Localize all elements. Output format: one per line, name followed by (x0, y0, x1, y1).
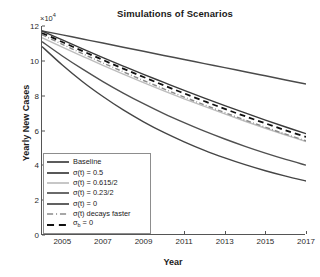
x-axis-tick-label: 2009 (135, 237, 153, 246)
y-axis-label: Yearly New Cases (21, 53, 31, 193)
legend-item[interactable]: σ(t) = 0 (47, 199, 146, 209)
y-axis-tick-label: 0 (35, 231, 39, 240)
x-axis-tick-label: 2005 (53, 237, 71, 246)
legend-item-label: σb = 0 (73, 218, 93, 230)
legend-item-label: σ(t) = 0 (73, 199, 97, 209)
x-axis-tick-label: 2011 (176, 237, 193, 246)
y-axis-tick-label: 12 (30, 22, 39, 31)
legend-item[interactable]: σ(t) = 0.23/2 (47, 188, 146, 198)
series-line-sigma-0.23-over-2 (42, 42, 306, 165)
y-axis-tick-mark (42, 60, 45, 61)
legend-item[interactable]: σb = 0 (47, 219, 146, 229)
x-axis-tick-label: 2007 (94, 237, 112, 246)
legend-item-label: σ(t) = 0.5 (73, 168, 103, 178)
x-axis-tick-mark (184, 231, 185, 234)
y-axis-multiplier: ×104 (40, 12, 56, 23)
legend-item-label: σ(t) = 0.23/2 (73, 188, 114, 198)
x-axis-tick-label: 2013 (216, 237, 234, 246)
legend-line-icon (47, 157, 69, 167)
x-axis-label: Year (41, 257, 305, 267)
y-axis-multiplier-base: ×10 (40, 14, 53, 23)
y-axis-tick-mark (42, 95, 45, 96)
legend-item-label: Baseline (73, 157, 101, 167)
legend-line-icon (47, 220, 69, 230)
legend-item-label: σ(t) = 0.615/2 (73, 178, 118, 188)
x-axis-tick-mark (306, 231, 307, 234)
y-axis-tick-mark (42, 235, 45, 236)
legend-item[interactable]: σ(t) = 0.615/2 (47, 178, 146, 188)
y-axis-multiplier-exponent: 4 (53, 12, 56, 18)
chart-figure: Simulations of Scenarios ×104 0246810122… (0, 0, 320, 277)
x-axis-tick-mark (225, 231, 226, 234)
legend-item[interactable]: σ(t) = 0.5 (47, 167, 146, 177)
x-axis-tick-mark (265, 231, 266, 234)
legend-line-icon (47, 168, 69, 178)
y-axis-tick-label: 4 (35, 161, 39, 170)
legend-item[interactable]: σ(t) decays faster (47, 209, 146, 219)
y-axis-tick-label: 8 (35, 91, 39, 100)
y-axis-tick-mark (42, 26, 45, 27)
series-line-Baseline (42, 31, 306, 84)
x-axis-tick-label: 2015 (256, 237, 274, 246)
legend-line-icon (47, 199, 69, 209)
x-axis-tick-label: 2017 (297, 237, 315, 246)
y-axis-tick-mark (42, 130, 45, 131)
y-axis-tick-label: 2 (35, 196, 39, 205)
legend-line-icon (47, 188, 69, 198)
legend-line-icon (47, 178, 69, 188)
y-axis-tick-label: 6 (35, 126, 39, 135)
legend-item[interactable]: Baseline (47, 157, 146, 167)
y-axis-tick-label: 10 (30, 56, 39, 65)
legend-line-icon (47, 209, 69, 219)
legend: Baselineσ(t) = 0.5σ(t) = 0.615/2σ(t) = 0… (43, 153, 151, 234)
